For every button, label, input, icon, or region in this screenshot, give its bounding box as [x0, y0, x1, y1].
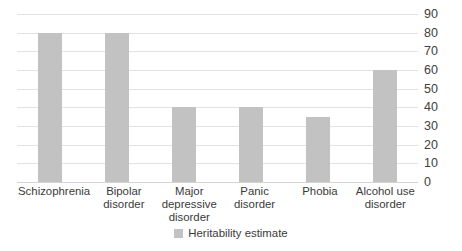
x-tick-label: Schizophrenia [17, 185, 91, 221]
y-tick-label: 60 [424, 64, 452, 76]
y-tick-label: 50 [424, 83, 452, 95]
y-tick-label: 10 [424, 157, 452, 169]
bar[interactable] [172, 107, 196, 182]
x-tick-label: Alcohol use disorder [353, 185, 418, 221]
bar-slot [284, 14, 351, 182]
bar-slot [217, 14, 284, 182]
gridline-0 [17, 182, 418, 183]
x-tick-label: Phobia [287, 185, 352, 221]
bar-slot [84, 14, 151, 182]
chart-legend: Heritability estimate [0, 227, 462, 240]
bar[interactable] [306, 117, 330, 182]
x-axis: SchizophreniaBipolar disorderMajor depre… [17, 185, 418, 221]
y-tick-label: 70 [424, 45, 452, 57]
y-tick-label: 90 [424, 8, 452, 20]
x-tick-label: Major depressive disorder [157, 185, 222, 221]
x-tick-label: Bipolar disorder [91, 185, 156, 221]
y-tick-label: 40 [424, 101, 452, 113]
y-tick-label: 30 [424, 120, 452, 132]
y-tick-label: 20 [424, 139, 452, 151]
bar[interactable] [373, 70, 397, 182]
y-tick-label: 0 [424, 176, 452, 188]
legend-swatch-icon [174, 229, 183, 238]
y-tick-label: 80 [424, 27, 452, 39]
bar-chart: 9080706050403020100 SchizophreniaBipolar… [0, 0, 462, 251]
bar[interactable] [239, 107, 263, 182]
bar[interactable] [38, 33, 62, 182]
x-tick-label: Panic disorder [222, 185, 287, 221]
legend-label: Heritability estimate [188, 227, 287, 240]
plot-area [17, 14, 418, 182]
bar-slot [351, 14, 418, 182]
bar-slot [151, 14, 218, 182]
bar[interactable] [105, 33, 129, 182]
bars-layer [17, 14, 418, 182]
y-axis: 9080706050403020100 [424, 0, 458, 196]
bar-slot [17, 14, 84, 182]
